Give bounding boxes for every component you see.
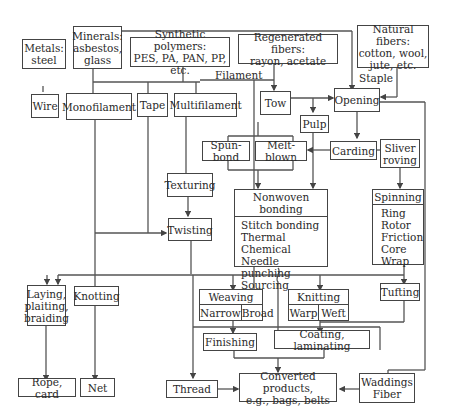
- node-pulp: Pulp: [300, 115, 329, 133]
- node-melt-blown: Melt-blown: [255, 141, 307, 161]
- weaving-types: Narrow Broad: [200, 305, 262, 320]
- spinning-methods: Ring Rotor Friction Core Wrap: [373, 205, 423, 267]
- minerals-label: Minerals:: [72, 30, 123, 42]
- waddings-label: Waddings: [361, 376, 413, 388]
- node-converted-products: Converted products, e.g., bags, belts: [239, 373, 337, 402]
- method-needle-punching: Needle punching: [241, 255, 327, 279]
- node-monofilament: Monofilament: [66, 93, 132, 120]
- minerals-example-1: asbestos,: [73, 42, 122, 54]
- node-tow: Tow: [260, 91, 291, 115]
- node-knotting: Knotting: [74, 286, 119, 306]
- spin-ring: Ring: [381, 207, 423, 219]
- nonwoven-title: Nonwoven bonding: [235, 190, 327, 217]
- node-spinning: Spinning Ring Rotor Friction Core Wrap: [372, 189, 424, 265]
- knitting-warp: Warp: [289, 305, 318, 320]
- node-multifilament: Multifilament: [174, 93, 237, 117]
- node-sliver-roving: Sliver roving: [380, 139, 420, 168]
- weaving-title: Weaving: [200, 290, 262, 305]
- metals-example: steel: [31, 54, 56, 66]
- node-waddings-fiber: Waddings Fiber: [359, 373, 415, 403]
- metals-label: Metals:: [24, 42, 64, 54]
- nonwoven-methods: Stitch bonding Thermal Chemical Needle p…: [235, 217, 327, 291]
- laying-label: Laying,: [27, 288, 66, 300]
- node-knitting: Knitting Warp Weft: [288, 289, 349, 321]
- node-carding: Carding: [330, 141, 377, 160]
- source-natural: Natural fibers: cotton, wool, jute, etc.: [357, 25, 429, 68]
- source-metals: Metals: steel: [22, 39, 66, 69]
- node-net: Net: [80, 378, 115, 397]
- node-finishing: Finishing: [203, 333, 257, 351]
- method-chemical: Chemical: [241, 243, 327, 255]
- node-tufting: Tufting: [380, 283, 420, 301]
- sliver-label: Sliver: [384, 142, 415, 154]
- knitting-weft: Weft: [318, 305, 348, 320]
- source-regenerated: Regenerated fibers: rayon, acetate: [238, 34, 338, 64]
- spinning-title: Spinning: [373, 190, 423, 205]
- node-twisting: Twisting: [168, 218, 212, 241]
- synthetic-label: Synthetic polymers:: [131, 28, 229, 52]
- knitting-types: Warp Weft: [289, 305, 348, 320]
- node-spun-bond: Spun-bond: [202, 141, 250, 161]
- weaving-narrow: Narrow: [200, 305, 241, 320]
- node-nonwoven-bonding: Nonwoven bonding Stitch bonding Thermal …: [234, 189, 328, 267]
- method-stitch-bonding: Stitch bonding: [241, 219, 327, 231]
- filament-label: Filament: [215, 69, 262, 81]
- node-rope-card: Rope, card: [18, 378, 76, 397]
- node-coating-laminating: Coating, laminating: [274, 330, 370, 349]
- spin-core: Core: [381, 243, 423, 255]
- source-synthetic: Synthetic polymers: PES, PA, PAN, PP, et…: [130, 37, 230, 67]
- node-texturing: Texturing: [167, 173, 213, 197]
- source-minerals: Minerals: asbestos, glass: [73, 26, 122, 69]
- roving-label: roving: [383, 154, 417, 166]
- spin-wrap: Wrap: [381, 255, 423, 267]
- node-wire: Wire: [31, 94, 59, 118]
- knitting-title: Knitting: [289, 290, 348, 305]
- natural-example-1: cotton, wool,: [359, 47, 428, 59]
- plaiting-label: plaiting,: [24, 300, 68, 312]
- node-opening: Opening: [334, 88, 380, 112]
- method-thermal: Thermal: [241, 231, 327, 243]
- node-tape: Tape: [137, 93, 168, 117]
- fiber-label: Fiber: [373, 388, 402, 400]
- weaving-broad: Broad: [241, 305, 274, 320]
- node-laying-plaiting-braiding: Laying, plaiting, braiding: [27, 285, 66, 326]
- converted-examples: e.g., bags, belts: [246, 394, 330, 406]
- node-thread: Thread: [166, 380, 218, 398]
- spin-rotor: Rotor: [381, 219, 423, 231]
- spin-friction: Friction: [381, 231, 423, 243]
- minerals-example-2: glass: [84, 54, 111, 66]
- natural-label: Natural fibers:: [358, 23, 428, 47]
- regenerated-label: Regenerated fibers:: [239, 31, 337, 55]
- node-weaving: Weaving Narrow Broad: [199, 289, 263, 321]
- natural-example-2: jute, etc.: [370, 59, 417, 71]
- staple-label: Staple: [359, 72, 393, 84]
- regenerated-example: rayon, acetate: [250, 55, 326, 67]
- converted-label: Converted products,: [240, 370, 336, 394]
- braiding-label: braiding: [24, 312, 69, 324]
